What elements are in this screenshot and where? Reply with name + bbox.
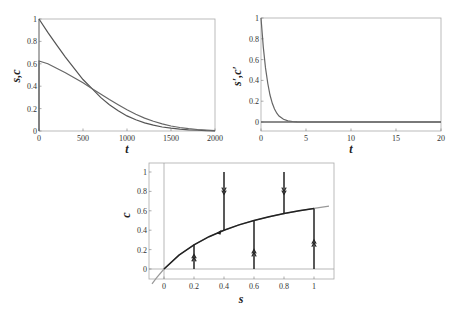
plot3-frame	[149, 163, 334, 279]
plot1-xtick-label: 0	[37, 134, 41, 143]
slow-trajectory-line	[164, 208, 314, 269]
plot3-ytick-label: 0.2	[137, 246, 147, 255]
plot1-xtick-label: 2000	[207, 134, 223, 143]
plot3-xtick-label: 0.6	[249, 282, 259, 291]
plot2-ylabel: s′,c′	[230, 66, 244, 87]
series-c-line	[39, 61, 215, 131]
plot3-ytick-label: 0	[143, 265, 147, 274]
plot3-ytick-label: 1	[143, 168, 147, 177]
series-s-prime-line	[261, 18, 441, 122]
plot1-xtick-label: 500	[77, 134, 89, 143]
plot3-xtick-label: 0	[162, 282, 166, 291]
plot1-ylabel: s,c	[9, 69, 23, 84]
plot3-xtick-label: 1	[312, 282, 316, 291]
plot2-ytick-label: 0.2	[249, 97, 259, 106]
plot2-xtick-label: 15	[392, 134, 400, 143]
plot3-ytick-label: 0.6	[137, 207, 147, 216]
plot1-ytick-label: 0.2	[27, 105, 37, 114]
plot-sc-prime-vs-t: 00.20.40.60.81 05101520 t s′,c′	[230, 14, 445, 156]
plot-phase-plane: 00.20.40.60.81 00.20.40.60.81 s c	[119, 163, 334, 306]
plot3-xtick-label: 0.8	[279, 282, 289, 291]
plot1-xlabel: t	[125, 142, 129, 156]
plot2-frame	[261, 18, 441, 131]
plot1-ytick-label: 0.4	[27, 82, 37, 91]
plot3-ytick-label: 0.4	[137, 226, 147, 235]
plot1-ytick-label: 0.6	[27, 60, 37, 69]
slow-arrow-icon	[217, 230, 222, 235]
plot3-xtick-label: 0.2	[189, 282, 199, 291]
plot2-ytick-label: 0.6	[249, 56, 259, 65]
plot2-ytick-label: 0.4	[249, 76, 259, 85]
plot1-xtick-label: 1500	[163, 134, 179, 143]
plot2-xtick-label: 0	[259, 134, 263, 143]
plot3-xlabel: s	[238, 292, 244, 306]
plot2-xtick-label: 20	[437, 134, 445, 143]
series-s-line	[39, 19, 215, 131]
figure: 00.20.40.60.81 0500100015002000 t s,c 00…	[0, 0, 460, 318]
plot3-xtick-label: 0.4	[219, 282, 229, 291]
plot-sc-vs-t: 00.20.40.60.81 0500100015002000 t s,c	[9, 15, 223, 156]
arrow-left-icon	[217, 230, 222, 235]
plot3-ylabel: c	[119, 212, 133, 218]
plot1-frame	[39, 19, 215, 131]
plot2-xtick-label: 5	[304, 134, 308, 143]
plot2-xlabel: t	[349, 142, 353, 156]
plot1-ytick-label: 0.8	[27, 37, 37, 46]
plot1-ytick-label: 1	[33, 15, 37, 24]
plot2-ytick-label: 0.8	[249, 35, 259, 44]
slow-manifold-line	[152, 206, 329, 284]
plot2-ytick-label: 0	[255, 118, 259, 127]
plot2-ytick-label: 1	[255, 14, 259, 23]
plot3-ytick-label: 0.8	[137, 187, 147, 196]
